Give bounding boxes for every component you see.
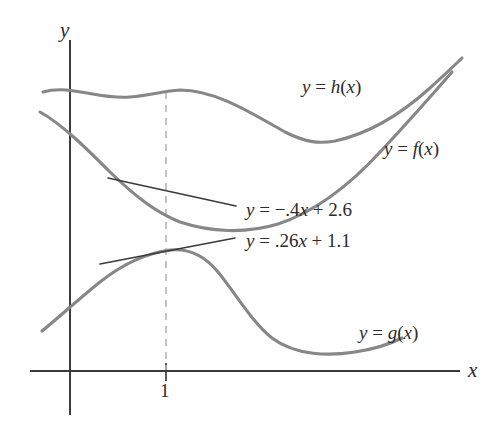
curve-label-g: y = g(x) bbox=[359, 322, 418, 344]
function-graph-figure: y x 1 y = h(x) y = f(x) y = g(x) y = −.4… bbox=[0, 0, 497, 421]
curve-label-f: y = f(x) bbox=[384, 138, 439, 160]
tangent-equation-g: y = .26x + 1.1 bbox=[246, 230, 351, 252]
y-axis-label: y bbox=[60, 18, 69, 43]
x-tick-label-1: 1 bbox=[160, 380, 170, 402]
x-axis-label: x bbox=[468, 358, 477, 383]
tangent-line-g bbox=[100, 238, 235, 264]
tangent-line-f bbox=[108, 178, 236, 206]
tangent-equation-f: y = −.4x + 2.6 bbox=[246, 199, 352, 221]
curve-label-h: y = h(x) bbox=[302, 76, 361, 98]
curve-g bbox=[42, 250, 402, 354]
